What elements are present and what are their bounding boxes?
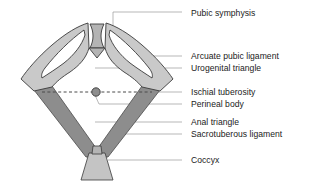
- anatomical-figure: Pubic symphysis Arcuate pubic ligament U…: [0, 0, 309, 191]
- left-hip-bone: [21, 23, 89, 91]
- label-perineal-body: Perineal body: [191, 99, 244, 109]
- label-sacrotuberous-ligament: Sacrotuberous ligament: [191, 129, 282, 139]
- label-pubic-symphysis: Pubic symphysis: [191, 8, 255, 18]
- pubic-symphysis-shape: [89, 24, 105, 58]
- arcuate-pubic-ligament-shape: [89, 48, 105, 58]
- label-urogenital-triangle: Urogenital triangle: [191, 63, 261, 73]
- label-ischial-tuberosity: Ischial tuberosity: [191, 87, 255, 97]
- coccyx-neck: [92, 146, 102, 154]
- right-hip-bone: [105, 23, 173, 91]
- label-anal-triangle: Anal triangle: [191, 117, 239, 127]
- sacrotuberous-ligament-right: [98, 86, 160, 157]
- leader-pubic-symphysis: [113, 12, 182, 28]
- perineal-body-dot: [92, 88, 100, 96]
- perineum-diagram: [0, 0, 309, 191]
- label-coccyx: Coccyx: [191, 155, 219, 165]
- label-arcuate-pubic-ligament: Arcuate pubic ligament: [191, 51, 279, 61]
- sacrotuberous-ligament-left: [34, 86, 96, 157]
- pubic-symphysis-band: [90, 24, 104, 48]
